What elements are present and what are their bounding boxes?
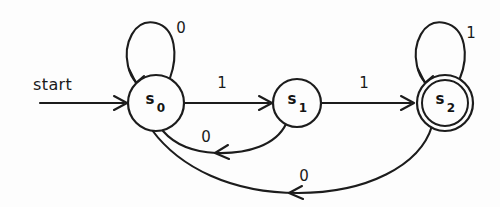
state-node-s2[interactable]: s 2	[417, 75, 473, 131]
state-label-s2: s	[436, 90, 445, 108]
state-circle-s1	[273, 79, 321, 127]
state-subscript-s2: 2	[447, 101, 455, 115]
edge-label-s0-s1: 1	[217, 74, 227, 92]
edge-label-s2-s0: 0	[299, 167, 309, 185]
transition-s0-s0	[127, 22, 175, 83]
start-arrow	[40, 96, 127, 110]
edge-label-s0-s0: 0	[176, 19, 186, 37]
edge-label-s2-s2: 1	[466, 24, 476, 42]
transition-s1-s0	[163, 124, 286, 159]
transition-s0-s1	[184, 96, 272, 110]
start-label: start	[33, 75, 72, 94]
state-label-s0: s	[146, 90, 155, 108]
fsm-diagram: s 0 s 1 s 2 start 0 1 0 1 1 0	[0, 0, 500, 207]
edge-label-s1-s0: 0	[201, 128, 211, 146]
transition-s2-s0	[152, 126, 432, 199]
state-node-s1[interactable]: s 1	[273, 79, 321, 127]
state-circle-inner-s2	[422, 80, 468, 126]
state-label-s1: s	[288, 90, 297, 108]
state-subscript-s1: 1	[299, 101, 307, 115]
state-node-s0[interactable]: s 0	[128, 75, 184, 131]
transition-s2-s2	[416, 22, 465, 83]
transition-s1-s2	[322, 96, 414, 110]
state-subscript-s0: 0	[157, 101, 165, 115]
fsm-canvas: s 0 s 1 s 2 start 0 1 0 1 1 0	[0, 0, 500, 207]
edge-label-s1-s2: 1	[359, 74, 369, 92]
